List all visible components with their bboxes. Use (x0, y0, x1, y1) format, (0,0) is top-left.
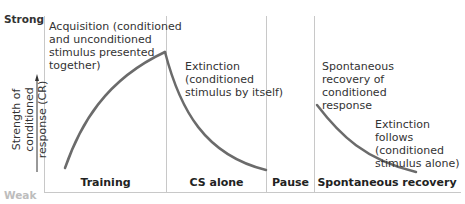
y-axis-title-line2: conditioned response (CR) (23, 65, 49, 175)
extinction-follows-annotation: Extinction follows (conditioned stimulus… (375, 118, 465, 170)
y-axis-title: Strength of conditioned response (CR) (10, 65, 49, 175)
phase-label-training: Training (45, 176, 166, 189)
phase-label-pause: Pause (267, 176, 314, 189)
annotation-line: Extinction follows (375, 118, 465, 144)
annotation-line: Acquisition (conditioned (49, 20, 182, 33)
annotation-line: and unconditioned (49, 33, 182, 46)
extinction-annotation: Extinction (conditioned stimulus by itse… (185, 60, 283, 99)
annotation-line: (conditioned (375, 144, 465, 157)
acquisition-annotation: Acquisition (conditioned and uncondition… (49, 20, 182, 72)
annotation-line: together) (49, 59, 182, 72)
recovery-annotation: Spontaneous recovery of conditioned resp… (322, 60, 394, 112)
annotation-line: Extinction (185, 60, 283, 73)
annotation-line: Spontaneous (322, 60, 394, 73)
annotation-line: recovery of (322, 73, 394, 86)
y-axis-title-line1: Strength of (10, 65, 23, 175)
annotation-line: stimulus alone) (375, 157, 465, 170)
annotation-line: stimulus presented (49, 46, 182, 59)
y-axis-strong-label: Strong (4, 13, 44, 25)
phase-label-spontaneous-recovery: Spontaneous recovery (315, 176, 459, 189)
annotation-line: (conditioned (185, 73, 283, 86)
annotation-line: response (322, 99, 394, 112)
phase-label-cs-alone: CS alone (167, 176, 266, 189)
y-axis-weak-label: Weak (4, 189, 36, 201)
annotation-line: conditioned (322, 86, 394, 99)
annotation-line: stimulus by itself) (185, 86, 283, 99)
